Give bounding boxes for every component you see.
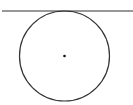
center-point [63, 55, 66, 58]
tangent-circle-diagram [0, 0, 133, 105]
